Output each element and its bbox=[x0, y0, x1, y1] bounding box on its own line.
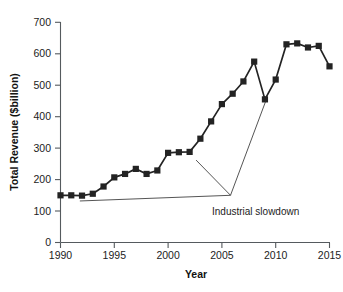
data-point-marker bbox=[187, 149, 193, 155]
y-axis-title: Total Revenue ($billion) bbox=[8, 73, 20, 191]
data-point-marker bbox=[68, 192, 74, 198]
y-tick-label-200: 200 bbox=[33, 173, 51, 185]
revenue-line-chart: 0 100 200 300 400 500 600 700 1990 1995 … bbox=[0, 0, 343, 292]
data-point-marker bbox=[165, 150, 171, 156]
data-point-marker bbox=[111, 174, 117, 180]
y-tick-label-500: 500 bbox=[33, 79, 51, 91]
data-point-marker bbox=[240, 78, 246, 84]
data-point-marker bbox=[100, 183, 106, 189]
annotation-leader-lines bbox=[80, 100, 266, 201]
data-point-marker bbox=[176, 149, 182, 155]
data-point-marker bbox=[230, 91, 236, 97]
data-point-marker bbox=[251, 59, 257, 65]
y-tick-label-0: 0 bbox=[45, 236, 51, 248]
annotation-label-industrial-slowdown: Industrial slowdown bbox=[212, 206, 299, 217]
data-point-marker bbox=[219, 101, 225, 107]
data-point-marker bbox=[57, 192, 63, 198]
data-point-marker bbox=[208, 118, 214, 124]
x-tick-label-2005: 2005 bbox=[210, 249, 234, 261]
data-point-marker bbox=[79, 193, 85, 199]
y-tick-label-100: 100 bbox=[33, 205, 51, 217]
revenue-series-markers bbox=[57, 40, 332, 198]
chart-canvas: 0 100 200 300 400 500 600 700 1990 1995 … bbox=[0, 0, 343, 292]
y-tick-label-700: 700 bbox=[33, 16, 51, 28]
x-tick-label-1995: 1995 bbox=[103, 249, 127, 261]
data-point-marker bbox=[133, 166, 139, 172]
annotation-pointer-line bbox=[80, 195, 231, 201]
data-point-marker bbox=[326, 63, 332, 69]
data-point-marker bbox=[294, 40, 300, 46]
x-tick-label-2015: 2015 bbox=[318, 249, 342, 261]
x-tick-label-2010: 2010 bbox=[264, 249, 288, 261]
data-point-marker bbox=[154, 167, 160, 173]
revenue-series-line bbox=[61, 43, 330, 195]
x-tick-label-1990: 1990 bbox=[49, 249, 73, 261]
data-point-marker bbox=[197, 136, 203, 142]
data-point-marker bbox=[316, 43, 322, 49]
y-tick-label-600: 600 bbox=[33, 47, 51, 59]
y-tick-label-300: 300 bbox=[33, 142, 51, 154]
data-point-marker bbox=[143, 171, 149, 177]
data-point-marker bbox=[90, 191, 96, 197]
data-point-marker bbox=[273, 76, 279, 82]
x-axis-title: Year bbox=[185, 268, 207, 280]
data-point-marker bbox=[283, 41, 289, 47]
x-tick-label-2000: 2000 bbox=[156, 249, 180, 261]
annotation-pointer-line bbox=[196, 160, 230, 195]
x-axis-ticks bbox=[61, 243, 330, 249]
y-tick-label-400: 400 bbox=[33, 110, 51, 122]
data-point-marker bbox=[305, 44, 311, 50]
y-axis-ticks bbox=[55, 22, 61, 242]
data-point-marker bbox=[262, 96, 268, 102]
annotation-pointer-line bbox=[231, 100, 267, 195]
data-point-marker bbox=[122, 171, 128, 177]
